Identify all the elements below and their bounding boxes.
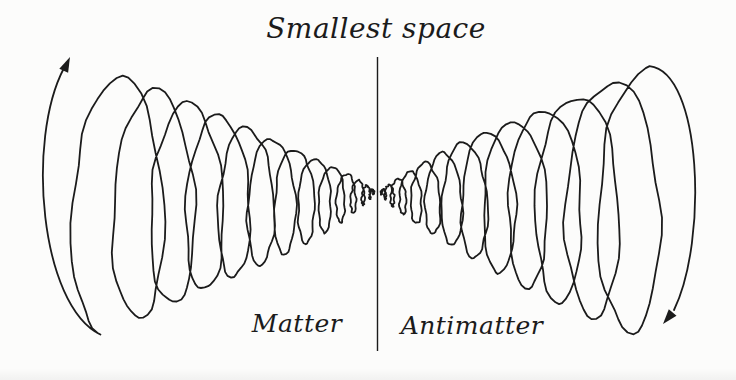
diagram-canvas: Smallest space Matter Antimatter xyxy=(0,0,736,380)
arrowhead-up-icon xyxy=(59,57,70,73)
diagram-title: Smallest space xyxy=(266,12,486,45)
matter-label: Matter xyxy=(252,309,342,338)
antimatter-label: Antimatter xyxy=(401,311,544,340)
matter-spiral-curve xyxy=(43,68,375,335)
antimatter-spiral-curve xyxy=(381,66,696,334)
vortex-spiral-diagram xyxy=(0,0,736,380)
arrowhead-down-icon xyxy=(663,309,677,324)
